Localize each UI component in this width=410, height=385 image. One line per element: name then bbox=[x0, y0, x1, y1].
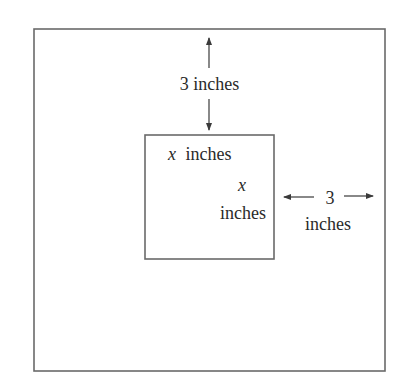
right-gap-value: 3 bbox=[326, 188, 335, 208]
inner-width-label: x inches bbox=[167, 144, 231, 164]
top-gap-label: 3 inches bbox=[180, 74, 239, 94]
diagram: 3 inches x inches x inches 3 inches bbox=[0, 0, 410, 385]
inner-width-unit: inches bbox=[186, 144, 232, 164]
inner-width-var: x bbox=[167, 144, 176, 164]
inner-height-var: x bbox=[237, 175, 246, 195]
right-gap-unit: inches bbox=[305, 214, 351, 234]
inner-height-unit: inches bbox=[220, 203, 266, 223]
